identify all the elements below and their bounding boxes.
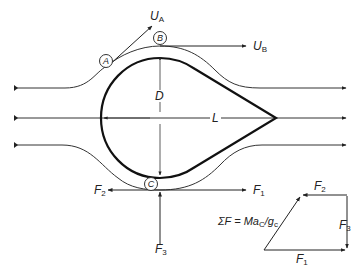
sum-force-equation: ΣF = MaC/gc [218, 215, 278, 229]
label-ub: UB [253, 40, 267, 54]
streamline-bottom [15, 145, 346, 190]
polygon-label-f3-visible: F3 [339, 219, 351, 233]
streamlines [14, 46, 346, 190]
label-f1-at-c: F1 [253, 184, 265, 198]
label-d: D [155, 90, 164, 102]
label-ua: UA [150, 10, 164, 24]
polygon-label-f2: F2 [314, 180, 326, 194]
flow-diagram [0, 0, 363, 277]
label-f2-at-c: F2 [94, 184, 106, 198]
streamline-top [15, 46, 346, 88]
point-b-marker: B [153, 31, 167, 45]
point-c-marker: C [144, 177, 158, 191]
label-f3-at-c: F3 [155, 243, 167, 257]
point-a-marker: A [99, 54, 113, 68]
polygon-label-f1: F1 [296, 253, 308, 267]
label-l: L [210, 112, 221, 124]
